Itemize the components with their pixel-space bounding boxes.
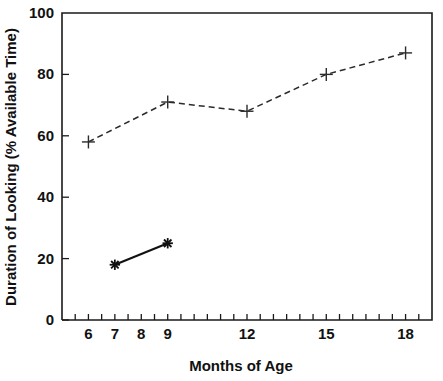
y-tick-label: 40 xyxy=(37,188,54,205)
x-axis-tick-labels: 6789121518 xyxy=(84,325,414,342)
plus-marker xyxy=(399,46,412,59)
y-tick-label: 20 xyxy=(37,250,54,267)
plus-marker xyxy=(241,105,254,118)
y-axis-title: Duration of Looking (% Available Time) xyxy=(2,28,19,306)
x-tick-label: 15 xyxy=(318,325,335,342)
x-axis-ticks xyxy=(75,314,419,320)
x-tick-label: 8 xyxy=(137,325,145,342)
x-tick-label: 7 xyxy=(111,325,119,342)
series-line xyxy=(115,243,168,264)
plus-marker xyxy=(320,68,333,81)
y-tick-label: 60 xyxy=(37,127,54,144)
data-series-layer xyxy=(82,46,412,270)
plot-frame xyxy=(62,13,432,320)
x-tick-label: 12 xyxy=(239,325,256,342)
chart-canvas: 6789121518 020406080100 Months of Age Du… xyxy=(0,0,443,381)
x-tick-label: 9 xyxy=(164,325,172,342)
y-axis-ticks xyxy=(62,74,69,320)
x-tick-label: 6 xyxy=(84,325,92,342)
plus-marker xyxy=(82,135,95,148)
x-tick-label: 18 xyxy=(397,325,414,342)
series-line xyxy=(88,53,405,142)
x-axis-title: Months of Age xyxy=(189,357,293,374)
star-marker xyxy=(110,260,120,270)
line-chart: 6789121518 020406080100 Months of Age Du… xyxy=(0,0,443,381)
y-axis-tick-labels: 020406080100 xyxy=(29,4,54,328)
y-tick-label: 100 xyxy=(29,4,54,21)
series-dashed-series xyxy=(82,46,412,148)
plot-border xyxy=(62,13,432,320)
y-tick-label: 0 xyxy=(46,311,54,328)
star-marker xyxy=(163,238,173,248)
y-tick-label: 80 xyxy=(37,65,54,82)
series-solid-series xyxy=(110,238,173,270)
plus-marker xyxy=(161,96,174,109)
